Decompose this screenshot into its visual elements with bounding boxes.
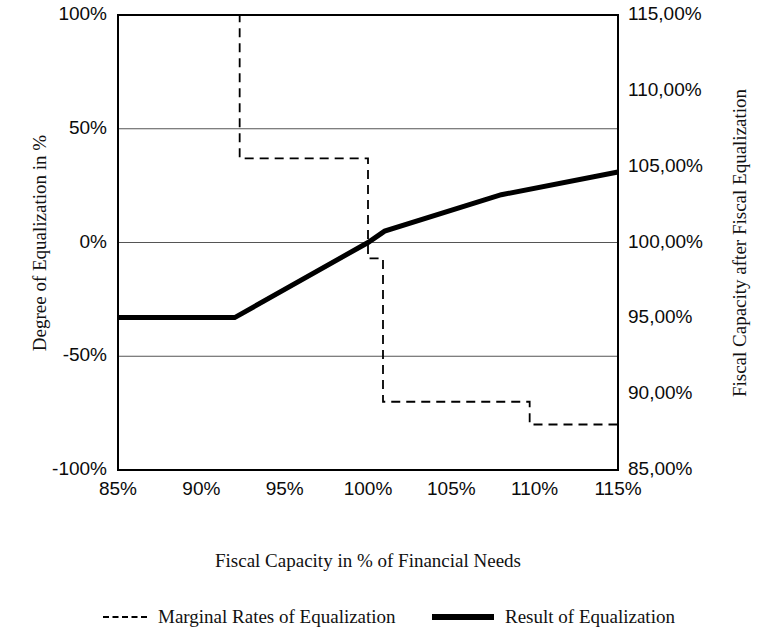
legend-item-result: Result of Equalization <box>432 606 675 628</box>
legend-label-marginal-rates: Marginal Rates of Equalization <box>158 606 396 628</box>
solid-line-swatch-icon <box>432 614 494 620</box>
legend-item-marginal-rates: Marginal Rates of Equalization <box>103 606 396 628</box>
series-line-marginal-rates <box>118 15 618 425</box>
plot-canvas <box>0 0 763 641</box>
legend-label-result: Result of Equalization <box>505 606 675 628</box>
chart-figure: Degree of Equalization in % Fiscal Capac… <box>0 0 763 641</box>
dashed-line-swatch-icon <box>103 616 147 618</box>
chart-legend: Marginal Rates of Equalization Result of… <box>0 604 763 638</box>
